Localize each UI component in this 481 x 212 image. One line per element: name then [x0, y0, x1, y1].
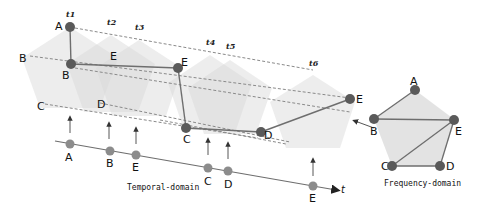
node-label-C: C: [183, 133, 191, 146]
lane-label-C: C: [37, 100, 45, 113]
freq-label-D: D: [446, 160, 454, 173]
time-axis-label: t: [341, 184, 346, 195]
time-label-t2: t2: [107, 17, 117, 27]
lane-label-E: E: [110, 50, 117, 63]
timeline-label-B: B: [106, 157, 114, 170]
timeline-label-E: E: [132, 161, 139, 174]
freq-label-E: E: [455, 125, 462, 138]
node-label-E1: E: [181, 56, 188, 69]
frequency-node-E[interactable]: [449, 115, 459, 125]
time-label-t4: t4: [206, 37, 216, 47]
diagram-canvas: A B E C D E B E C D t1 t2 t3 t4 t5 t6 t …: [0, 0, 481, 212]
timeline-event-A[interactable]: [66, 140, 75, 149]
frequency-node-B[interactable]: [369, 114, 379, 124]
temporal-node-E2[interactable]: [345, 94, 355, 104]
node-label-E2: E: [356, 93, 363, 106]
time-label-t1: t1: [66, 9, 75, 19]
frequency-node-D[interactable]: [435, 161, 445, 171]
node-label-B: B: [62, 69, 70, 82]
timeline-label-E2: E: [309, 192, 316, 205]
freq-label-B: B: [370, 125, 378, 138]
frequency-domain-caption: Frequency-domain: [384, 179, 461, 188]
temporal-domain-caption: Temporal-domain: [127, 183, 199, 192]
node-label-D: D: [264, 129, 272, 142]
temporal-node-A[interactable]: [65, 22, 75, 32]
timeline-event-C[interactable]: [204, 164, 213, 173]
time-label-t6: t6: [309, 58, 319, 68]
time-label-t3: t3: [135, 22, 145, 32]
timeline-event-D[interactable]: [224, 167, 233, 176]
timeline-label-A: A: [65, 151, 73, 164]
timeline-event-E2[interactable]: [309, 182, 318, 191]
freq-label-C: C: [381, 160, 389, 173]
temporal-frequency-diagram: A B E C D E B E C D t1 t2 t3 t4 t5 t6 t …: [0, 0, 481, 212]
timeline-label-D: D: [224, 178, 232, 191]
timeline-label-C: C: [204, 175, 212, 188]
timeline-event-E[interactable]: [132, 151, 141, 160]
freq-label-A: A: [410, 75, 418, 88]
lane-label-B: B: [19, 52, 27, 65]
temporal-node-C[interactable]: [181, 123, 191, 133]
timeline-event-B[interactable]: [106, 147, 115, 156]
pentagon-t6: [270, 75, 355, 148]
time-label-t5: t5: [226, 41, 236, 51]
node-label-A: A: [55, 20, 63, 33]
temporal-node-B[interactable]: [66, 59, 76, 69]
lane-label-D: D: [97, 98, 105, 111]
